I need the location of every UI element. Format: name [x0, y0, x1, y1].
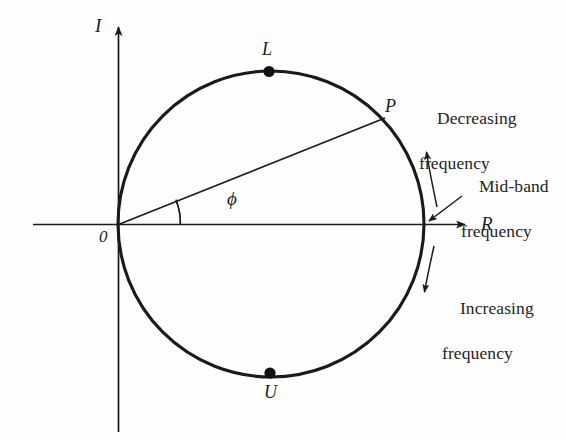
phi-arc-path: [176, 200, 180, 225]
imaginary-axis-label: I: [95, 16, 101, 35]
origin-label: 0: [99, 228, 108, 245]
midband-frequency-line1: Mid-band: [479, 176, 549, 196]
increasing-frequency-annotation: Increasing frequency: [442, 282, 534, 397]
figure-container: I R 0 L P U ϕ Decreasing frequency Mid-b…: [0, 0, 566, 440]
decreasing-frequency-line1: Decreasing: [437, 108, 517, 128]
increasing-frequency-arrow: [425, 246, 435, 292]
phi-angle-label: ϕ: [227, 189, 237, 208]
point-u-label: U: [264, 383, 277, 401]
increasing-frequency-line2: frequency: [442, 345, 534, 363]
point-l-marker: [263, 66, 274, 77]
point-u-marker: [264, 367, 275, 378]
point-p-label: P: [385, 97, 396, 115]
point-l-label: L: [262, 40, 272, 58]
radial-line-op: [119, 118, 386, 225]
midband-frequency-line2: frequency: [461, 223, 549, 241]
midband-frequency-annotation: Mid-band frequency: [461, 160, 549, 275]
increasing-frequency-line1: Increasing: [460, 298, 534, 318]
